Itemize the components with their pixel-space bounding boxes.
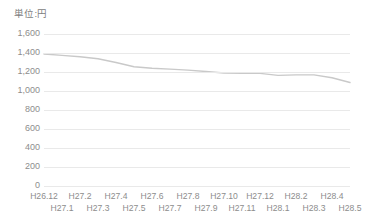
y-axis-tick-label: 400: [0, 143, 40, 152]
gridline: [44, 110, 350, 111]
x-axis-tick-label: H27.9: [195, 203, 218, 213]
x-axis-tick-label: H28.3: [303, 203, 326, 213]
y-axis-tick-label: 1,000: [0, 86, 40, 95]
x-axis-tick-label: H28.5: [339, 203, 362, 213]
x-axis-tick-label: H28.1: [267, 203, 290, 213]
x-axis-tick-label: H27.2: [69, 191, 92, 201]
x-axis-tick-label: H27.12: [246, 191, 274, 201]
gridline: [44, 34, 350, 35]
x-axis-tick-label: H27.1: [51, 203, 74, 213]
x-axis-tick-label: H28.2: [285, 191, 308, 201]
gridline: [44, 167, 350, 168]
x-axis-tick-label: H27.5: [123, 203, 146, 213]
x-axis-tick-label: H27.8: [177, 191, 200, 201]
x-axis-tick-label: H27.4: [105, 191, 128, 201]
y-axis-tick-label: 800: [0, 105, 40, 114]
x-axis-tick-label: H27.3: [87, 203, 110, 213]
gridline: [44, 53, 350, 54]
x-axis-tick-label: H27.7: [159, 203, 182, 213]
gridline: [44, 91, 350, 92]
y-axis-tick-label: 1,400: [0, 48, 40, 57]
x-axis-tick-label: H27.10: [210, 191, 238, 201]
y-axis-tick-label: 600: [0, 124, 40, 133]
plot-area: [44, 34, 350, 186]
gridline: [44, 72, 350, 73]
gridline: [44, 129, 350, 130]
x-axis-tick-label: H26.12: [30, 191, 58, 201]
unit-caption: 単位:円: [14, 8, 47, 19]
gridline: [44, 148, 350, 149]
x-axis-tick-label: H27.11: [228, 203, 255, 213]
y-axis-tick-label: 1,200: [0, 67, 40, 76]
x-axis: H26.12H27.1H27.2H27.3H27.4H27.5H27.6H27.…: [0, 188, 366, 217]
line-chart: 単位:円 1,6001,4001,2001,0008006004002000 H…: [0, 0, 366, 217]
x-axis-tick-label: H28.4: [321, 191, 344, 201]
y-axis-tick-label: 200: [0, 162, 40, 171]
series-line-path: [44, 54, 350, 82]
y-axis-tick-label: 1,600: [0, 29, 40, 38]
x-axis-tick-label: H27.6: [141, 191, 164, 201]
gridline: [44, 186, 350, 187]
y-axis: 1,6001,4001,2001,0008006004002000: [0, 34, 40, 186]
